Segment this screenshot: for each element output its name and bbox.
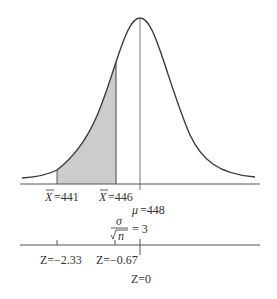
normal-curve-diagram: X =441 X =446 μ =448 σ n = 3 Z=−2.33 Z=−… [0, 0, 277, 299]
svg-text:X: X [98, 190, 107, 204]
svg-text:σ: σ [116, 214, 123, 228]
xbar-label-446: X =446 [98, 190, 133, 204]
z-label-neg233: Z=−2.33 [40, 253, 82, 267]
shaded-probability-region [57, 62, 116, 184]
svg-text:=448: =448 [140, 203, 165, 217]
standard-error-label: σ n = 3 [111, 214, 148, 243]
svg-text:= 3: = 3 [132, 222, 148, 236]
bell-curve [22, 18, 255, 178]
svg-text:n: n [118, 229, 124, 243]
xbar-label-441: X =441 [44, 190, 79, 204]
z-label-0: Z=0 [131, 272, 151, 286]
svg-text:=441: =441 [54, 190, 79, 204]
mean-label: μ =448 [131, 203, 165, 217]
svg-text:=446: =446 [108, 190, 133, 204]
z-label-neg067: Z=−0.67 [96, 253, 138, 267]
svg-text:X: X [44, 190, 53, 204]
svg-text:μ: μ [131, 203, 138, 217]
